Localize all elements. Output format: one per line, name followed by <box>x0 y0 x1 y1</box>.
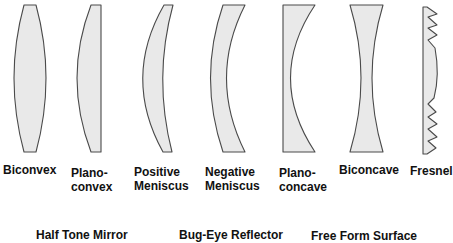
label-positive-meniscus: Positive Meniscus <box>134 165 189 193</box>
positive-meniscus-lens-shape <box>143 5 173 152</box>
label-bug-eye-reflector: Bug-Eye Reflector <box>179 228 283 242</box>
label-negative-meniscus: Negative Meniscus <box>205 165 260 193</box>
label-biconcave: Biconcave <box>339 163 399 177</box>
label-plano-convex: Plano- convex <box>71 166 112 194</box>
label-half-tone-mirror: Half Tone Mirror <box>36 228 128 242</box>
biconcave-lens-shape <box>350 5 383 152</box>
label-fresnel: Fresnel <box>410 164 453 178</box>
label-plano-concave: Plano- concave <box>279 166 327 194</box>
biconvex-lens-shape <box>14 5 46 152</box>
fresnel-lens-shape <box>423 7 437 154</box>
label-free-form-surface: Free Form Surface <box>311 229 417 243</box>
negative-meniscus-lens-shape <box>211 5 246 152</box>
label-biconvex: Biconvex <box>3 163 56 177</box>
plano-convex-lens-shape <box>77 5 101 152</box>
plano-concave-lens-shape <box>283 5 315 152</box>
